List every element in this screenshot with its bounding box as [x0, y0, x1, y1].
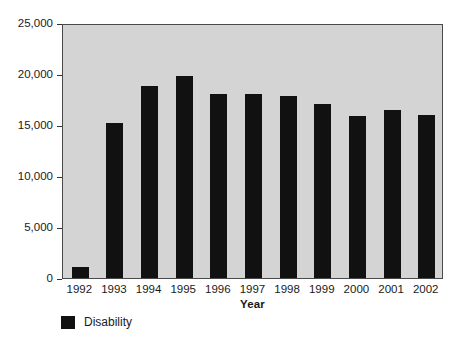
legend-swatch-disability [61, 316, 75, 329]
y-axis-tick-label: 15,000 [18, 120, 57, 132]
plot-area [62, 24, 443, 279]
bar-1997 [245, 94, 262, 278]
x-axis: 1992199319941995199619971998199920002001… [62, 282, 443, 298]
x-axis-tick-label: 1995 [166, 282, 201, 296]
x-axis-tick-label: 1997 [235, 282, 270, 296]
bar-2002 [418, 115, 435, 278]
x-axis-tick-label: 1998 [270, 282, 305, 296]
y-axis-tick-label: 0 [47, 273, 57, 285]
x-axis-tick-label: 1994 [131, 282, 166, 296]
bar-1994 [141, 86, 158, 278]
bar-1993 [106, 123, 123, 278]
bar-1998 [280, 96, 297, 278]
bar-2001 [384, 110, 401, 278]
bar-1999 [314, 104, 331, 278]
y-axis-tick-label: 10,000 [18, 171, 57, 183]
bar-1995 [176, 76, 193, 278]
bar-chart-figure: 05,00010,00015,00020,00025,000 199219931… [0, 0, 468, 343]
legend-label-disability: Disability [84, 316, 132, 329]
bars-layer [63, 25, 442, 278]
y-axis-tick-label: 20,000 [18, 69, 57, 81]
bar-2000 [349, 116, 366, 278]
x-axis-tick-label: 1992 [62, 282, 97, 296]
x-axis-title: Year [62, 298, 443, 310]
x-axis-tick-label: 2001 [374, 282, 409, 296]
bar-1996 [210, 94, 227, 278]
y-axis-tick-label: 5,000 [24, 222, 57, 234]
bar-1992 [72, 267, 89, 278]
x-axis-tick-label: 2000 [339, 282, 374, 296]
y-axis-tick-label: 25,000 [18, 18, 57, 30]
chart-legend: Disability [61, 316, 132, 329]
x-axis-tick-label: 1996 [201, 282, 236, 296]
y-axis: 05,00010,00015,00020,00025,000 [0, 0, 62, 343]
x-axis-tick-label: 1999 [304, 282, 339, 296]
x-axis-tick-label: 2002 [408, 282, 443, 296]
x-axis-tick-label: 1993 [97, 282, 132, 296]
